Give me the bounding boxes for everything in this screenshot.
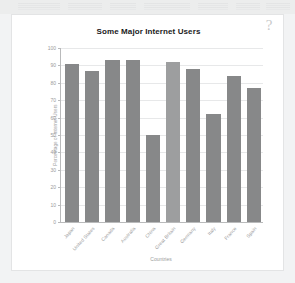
chart-plot-area: Percentage of Internet Users 01020304050…	[40, 44, 268, 266]
chart-window: ? Some Major Internet Users Percentage o…	[0, 0, 295, 283]
y-axis-tick-mark	[58, 83, 61, 84]
y-axis-tick-label: 60	[50, 115, 56, 120]
bar-group: Italy	[206, 48, 220, 222]
window-toolbar-strip	[0, 0, 295, 14]
y-axis-tick-mark	[58, 135, 61, 136]
bar[interactable]	[206, 114, 220, 222]
x-axis-tick-label: France	[223, 226, 237, 241]
bar-group: France	[227, 48, 241, 222]
y-axis-tick-label: 10	[50, 202, 56, 207]
chart-title: Some Major Internet Users	[12, 27, 285, 36]
y-axis-tick-mark	[58, 100, 61, 101]
bar-group: Germany	[186, 48, 200, 222]
x-axis-tick-label: Great Britain	[154, 226, 177, 250]
bar[interactable]	[247, 88, 261, 222]
x-axis-tick-label: Canada	[101, 226, 116, 242]
y-axis-tick-label: 80	[50, 80, 56, 85]
y-axis-tick-label: 20	[50, 185, 56, 190]
y-axis-tick-mark	[58, 48, 61, 49]
toolbar-ghost-segment	[266, 3, 290, 11]
y-axis-tick-mark	[58, 170, 61, 171]
bar-group: Great Britain	[166, 48, 180, 222]
x-axis-tick-label: Australia	[120, 226, 137, 244]
y-axis-tick-mark	[58, 118, 61, 119]
y-axis-tick-mark	[58, 65, 61, 66]
toolbar-ghost-segment	[236, 3, 260, 11]
bar[interactable]	[166, 62, 180, 222]
y-axis-tick-label: 100	[48, 46, 56, 51]
y-axis-tick-mark	[58, 222, 61, 223]
y-axis-tick-label: 0	[53, 220, 56, 225]
bar[interactable]	[85, 71, 99, 222]
x-axis-tick-label: Japan	[63, 226, 76, 239]
x-axis-tick-label: United States	[72, 226, 96, 252]
toolbar-ghost-segment	[68, 3, 102, 11]
y-axis-tick-label: 40	[50, 150, 56, 155]
y-axis-tick-label: 70	[50, 98, 56, 103]
toolbar-ghost-segment	[18, 3, 60, 11]
toolbar-ghost-segment	[198, 3, 228, 11]
y-axis-tick-mark	[58, 205, 61, 206]
y-axis-tick-label: 30	[50, 167, 56, 172]
bar-group: China	[146, 48, 160, 222]
toolbar-ghost-segment	[144, 3, 190, 11]
bar-group: Japan	[65, 48, 79, 222]
bar-group: United States	[85, 48, 99, 222]
bars-layer: JapanUnited StatesCanadaAustraliaChinaGr…	[62, 48, 264, 222]
bar[interactable]	[105, 60, 119, 222]
y-axis-tick-label: 50	[50, 133, 56, 138]
y-axis-tick-mark	[58, 152, 61, 153]
bar-group: Australia	[126, 48, 140, 222]
bar[interactable]	[227, 76, 241, 222]
x-axis-tick-label: Italy	[207, 226, 217, 236]
toolbar-ghost-segment	[110, 3, 136, 11]
bar-group: Canada	[105, 48, 119, 222]
y-axis-tick-mark	[58, 187, 61, 188]
x-axis-title: Countries	[60, 256, 262, 262]
bar[interactable]	[126, 60, 140, 222]
x-axis-tick-label: Germany	[180, 226, 197, 245]
x-axis-tick-label: China	[144, 226, 156, 239]
chart-card: ? Some Major Internet Users Percentage o…	[11, 14, 284, 271]
plot-frame: Percentage of Internet Users 01020304050…	[60, 48, 263, 223]
y-axis-tick-label: 90	[50, 63, 56, 68]
bar-group: Spain	[247, 48, 261, 222]
bar[interactable]	[186, 69, 200, 222]
bar[interactable]	[146, 135, 160, 222]
bar[interactable]	[65, 64, 79, 222]
x-axis-tick-label: Spain	[245, 226, 257, 239]
